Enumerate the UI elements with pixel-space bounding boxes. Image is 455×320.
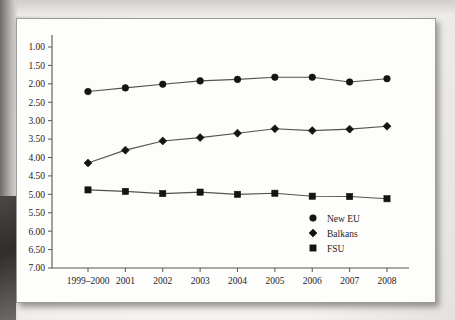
legend-label: Balkans xyxy=(327,229,358,239)
data-point xyxy=(197,189,203,195)
data-point xyxy=(159,81,166,88)
figure-caption-fragment xyxy=(95,0,365,11)
x-tick-label: 2004 xyxy=(228,276,247,286)
x-tick-label: 1999–2000 xyxy=(67,276,110,286)
y-tick-label: 4.50 xyxy=(28,171,45,181)
photographed-page-background: 1.001.502.002.503.003.504.004.505.005.50… xyxy=(0,0,455,320)
data-point xyxy=(347,193,353,199)
legend-label: New EU xyxy=(327,214,360,224)
data-point xyxy=(384,196,390,202)
chart-plot-area: 1.001.502.002.503.003.504.004.505.005.50… xyxy=(17,19,435,302)
y-tick-label: 3.00 xyxy=(28,116,45,126)
y-tick-label: 6.00 xyxy=(28,227,45,237)
data-point xyxy=(84,159,92,167)
y-tick-label: 3.50 xyxy=(28,134,45,144)
data-point xyxy=(234,129,242,137)
data-point xyxy=(383,122,391,130)
data-point xyxy=(272,190,278,196)
figure-card: 1.001.502.002.503.003.504.004.505.005.50… xyxy=(16,18,436,303)
x-tick-label: 2006 xyxy=(303,276,322,286)
data-point xyxy=(271,125,279,133)
line-chart: 1.001.502.002.503.003.504.004.505.005.50… xyxy=(17,19,435,302)
data-point xyxy=(122,85,129,92)
series-balkans xyxy=(84,122,391,167)
data-point xyxy=(85,88,92,95)
data-point xyxy=(346,79,353,86)
data-point xyxy=(197,78,204,85)
legend-marker-circle xyxy=(310,215,317,222)
legend-item-balkans: Balkans xyxy=(309,229,358,239)
y-tick-label: 5.50 xyxy=(28,208,45,218)
data-point xyxy=(160,190,166,196)
data-point xyxy=(234,191,240,197)
y-tick-label: 2.00 xyxy=(28,79,45,89)
legend-marker-square xyxy=(310,245,316,251)
data-point xyxy=(196,134,204,142)
x-tick-label: 2002 xyxy=(153,276,172,286)
y-tick-label: 7.00 xyxy=(28,263,45,273)
data-point xyxy=(308,127,316,135)
legend-item-new-eu: New EU xyxy=(310,214,360,224)
x-tick-label: 2003 xyxy=(191,276,210,286)
data-point xyxy=(384,75,391,82)
data-point xyxy=(309,193,315,199)
y-tick-label: 2.50 xyxy=(28,98,45,108)
y-tick-label: 1.00 xyxy=(28,42,45,52)
data-point xyxy=(122,188,128,194)
data-point xyxy=(346,125,354,133)
x-tick-label: 2007 xyxy=(340,276,359,286)
data-point xyxy=(234,76,241,83)
y-tick-label: 4.00 xyxy=(28,153,45,163)
data-point xyxy=(85,187,91,193)
data-point xyxy=(159,137,167,145)
x-tick-label: 2008 xyxy=(378,276,397,286)
legend-marker-diamond xyxy=(309,229,317,237)
data-point xyxy=(121,146,129,154)
data-point xyxy=(309,74,316,81)
y-tick-label: 5.00 xyxy=(28,190,45,200)
legend-item-fsu: FSU xyxy=(310,244,345,254)
x-tick-label: 2005 xyxy=(265,276,284,286)
x-tick-label: 2001 xyxy=(116,276,135,286)
legend-label: FSU xyxy=(327,244,345,254)
y-tick-label: 1.50 xyxy=(28,61,45,71)
data-point xyxy=(272,74,279,81)
series-fsu xyxy=(85,187,390,202)
y-tick-label: 6.50 xyxy=(28,245,45,255)
page-corner-shadow xyxy=(0,196,16,320)
series-new-eu xyxy=(85,74,391,95)
